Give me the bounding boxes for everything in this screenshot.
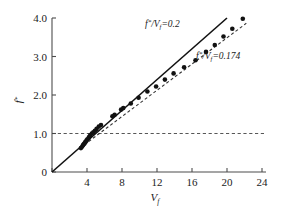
data-point: [241, 17, 246, 22]
data-point: [112, 112, 117, 117]
y-axis-title-super: *: [13, 96, 21, 100]
scatter-plot-svg: 0 1.0 2.0 3.0 4.0 4 8 12 16 20 24: [0, 0, 282, 212]
data-point: [99, 123, 104, 128]
data-point: [145, 89, 150, 94]
x-tick-label-8: 8: [119, 176, 125, 188]
x-tick-label-20: 20: [222, 176, 234, 188]
data-point: [129, 101, 134, 106]
annotation-slope-02-text: f*/Vf=0.2: [145, 18, 180, 30]
x-tick-marks: [52, 168, 262, 172]
bound-line-02: [52, 18, 227, 172]
x-tick-label-24: 24: [257, 176, 269, 188]
y-tick-label-0: 0: [42, 166, 48, 178]
annot0-tail: =0.2: [161, 19, 180, 29]
x-tick-labels: 4 8 12 16 20 24: [84, 176, 268, 188]
chart-figure: 0 1.0 2.0 3.0 4.0 4 8 12 16 20 24: [0, 0, 282, 212]
y-tick-label-4: 4.0: [33, 12, 47, 24]
x-tick-label-4: 4: [84, 176, 90, 188]
annotation-slope-0174: f*/Vf=0.174: [196, 50, 240, 62]
annotation-slope-02: f*/Vf=0.2: [145, 18, 180, 30]
data-point: [182, 65, 187, 70]
y-tick-label-3: 3.0: [33, 51, 47, 63]
x-tick-label-12: 12: [152, 176, 163, 188]
data-point: [136, 95, 141, 100]
best-fit-line-0174: [80, 23, 246, 148]
data-point: [230, 27, 235, 32]
y-tick-label-1: 1.0: [33, 128, 47, 140]
x-axis-title-sub: f: [157, 197, 160, 206]
y-tick-marks: [52, 18, 56, 172]
data-point: [163, 77, 168, 82]
x-axis-title: Vf: [151, 191, 161, 206]
axes-group: [52, 18, 266, 172]
data-point: [154, 84, 159, 89]
annot1-tail: =0.174: [212, 51, 240, 61]
data-point: [221, 34, 226, 39]
data-point: [213, 43, 218, 48]
y-tick-labels: 0 1.0 2.0 3.0 4.0: [33, 12, 47, 178]
x-tick-label-16: 16: [187, 176, 199, 188]
data-point: [121, 106, 126, 111]
data-point: [171, 71, 176, 76]
y-axis-title-group: f*: [12, 96, 24, 103]
y-tick-label-2: 2.0: [33, 89, 47, 101]
annotation-slope-0174-text: f*/Vf=0.174: [196, 50, 240, 62]
y-axis-title: f*: [12, 96, 24, 103]
